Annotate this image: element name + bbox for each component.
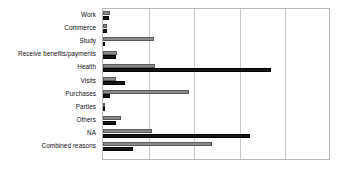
bar-group (103, 127, 329, 140)
bar-series-2 (103, 116, 121, 120)
category-label: Others (77, 116, 96, 123)
category-label-row: Study (0, 34, 99, 47)
category-axis-labels: Work Commerce Study Receive benefits/pay… (0, 8, 99, 152)
bar-series-1 (103, 42, 105, 46)
bar-series-1 (103, 94, 110, 98)
bars-layer (103, 9, 329, 153)
category-label: NA (87, 129, 96, 136)
bar-series-2 (103, 11, 110, 15)
bar-group (103, 88, 329, 101)
bar-series-2 (103, 64, 155, 68)
bar-series-1 (103, 29, 107, 33)
bar-series-1 (103, 121, 116, 125)
bar-series-1 (103, 134, 250, 138)
bar-group (103, 61, 329, 74)
bar-series-1 (103, 147, 133, 151)
bar-group (103, 35, 329, 48)
bar-group (103, 74, 329, 87)
bar-group (103, 101, 329, 114)
category-label-row: NA (0, 126, 99, 139)
bar-series-1 (103, 107, 105, 111)
bar-series-2 (103, 77, 116, 81)
bar-group (103, 114, 329, 127)
bar-group (103, 22, 329, 35)
bar-series-2 (103, 142, 212, 146)
bar-series-2 (103, 90, 189, 94)
bar-series-2 (103, 24, 107, 28)
category-label-row: Commerce (0, 21, 99, 34)
category-label: Commerce (64, 24, 96, 31)
category-label-row: Visits (0, 73, 99, 86)
category-label-row: Others (0, 113, 99, 126)
category-label: Visits (81, 77, 96, 84)
bar-group (103, 9, 329, 22)
category-label-row: Combined reasons (0, 139, 99, 152)
category-label-row: Health (0, 60, 99, 73)
bar-group (103, 140, 329, 153)
bar-series-2 (103, 129, 152, 133)
plot-area (102, 8, 330, 160)
bar-series-1 (103, 55, 116, 59)
category-label: Receive benefits/payments (18, 50, 96, 57)
category-label: Purchases (65, 90, 96, 97)
category-label: Work (81, 11, 96, 18)
category-label-row: Receive benefits/payments (0, 47, 99, 60)
bar-series-2 (103, 37, 154, 41)
bar-series-1 (103, 81, 125, 85)
bar-series-2 (103, 51, 117, 55)
category-label: Parties (76, 103, 96, 110)
category-label-row: Work (0, 8, 99, 21)
bar-group (103, 48, 329, 61)
bar-series-2 (103, 103, 105, 107)
category-label: Combined reasons (42, 142, 96, 149)
category-label-row: Parties (0, 100, 99, 113)
bar-series-1 (103, 68, 271, 72)
bar-chart: Work Commerce Study Receive benefits/pay… (0, 0, 342, 173)
category-label-row: Purchases (0, 87, 99, 100)
category-label: Study (79, 37, 96, 44)
bar-series-1 (103, 16, 109, 20)
category-label: Health (77, 63, 96, 70)
